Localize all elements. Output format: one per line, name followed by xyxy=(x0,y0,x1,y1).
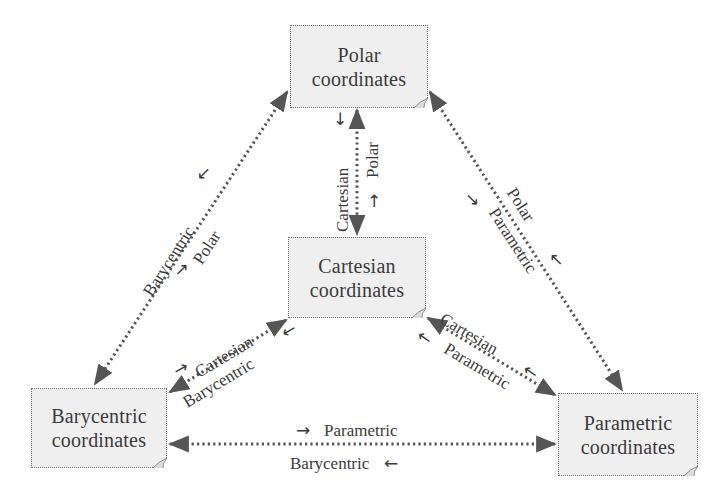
node-cartesian-line1: Cartesian xyxy=(318,254,395,278)
node-parametric-line1: Parametric xyxy=(584,411,673,435)
node-barycentric-line1: Barycentric xyxy=(51,404,146,428)
node-parametric-line2: coordinates xyxy=(581,435,675,459)
page-curl-icon xyxy=(414,98,428,108)
node-polar-line2: coordinates xyxy=(312,67,406,91)
edge-label-to-cartesian: Cartesian xyxy=(334,168,352,232)
arrow-right-icon: → xyxy=(296,421,310,439)
node-polar-line1: Polar xyxy=(337,43,380,67)
node-cartesian-coordinates: Cartesian coordinates xyxy=(288,237,426,318)
node-polar-coordinates: Polar coordinates xyxy=(290,25,428,108)
page-curl-icon xyxy=(153,458,167,468)
node-barycentric-line2: coordinates xyxy=(52,428,146,452)
edge-label-to-polar: Polar xyxy=(364,142,382,178)
arrow-up-icon: ↑ xyxy=(367,192,381,210)
edge-label-parametric-3: Parametric xyxy=(324,422,398,440)
node-parametric-coordinates: Parametric coordinates xyxy=(558,393,698,476)
edge-label-barycentric-3: Barycentric xyxy=(290,455,369,473)
page-curl-icon xyxy=(684,466,698,476)
arrow-left-icon: ← xyxy=(384,454,398,472)
node-barycentric-coordinates: Barycentric coordinates xyxy=(31,388,167,468)
arrow-down-icon: ↓ xyxy=(333,110,347,128)
node-cartesian-line2: coordinates xyxy=(310,278,404,302)
page-curl-icon xyxy=(412,308,426,318)
